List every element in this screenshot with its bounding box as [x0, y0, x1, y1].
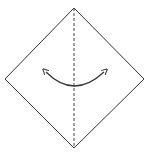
origami-diagram [0, 0, 148, 160]
